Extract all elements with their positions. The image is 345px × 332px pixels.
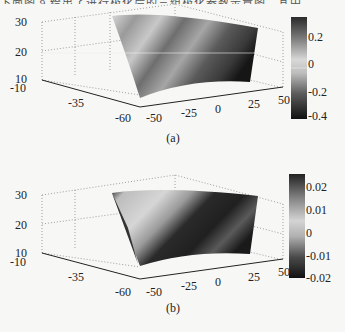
y-tick: -10 xyxy=(10,255,26,269)
z-tick: 20 xyxy=(15,218,27,232)
x-tick: 25 xyxy=(248,97,260,111)
colorbar-tick: -0.01 xyxy=(306,249,331,263)
y-tick: -10 xyxy=(10,81,26,95)
y-tick: -60 xyxy=(115,285,131,299)
x-tick: -50 xyxy=(146,111,162,125)
colorbar-tick: 0.2 xyxy=(308,30,323,44)
surface-a xyxy=(112,15,258,99)
colorbar-tick: 0.01 xyxy=(306,203,327,217)
x-tick: -25 xyxy=(181,279,197,293)
x-tick: -25 xyxy=(181,106,197,120)
y-tick: -35 xyxy=(68,270,84,284)
colorbar-tick: 0 xyxy=(308,57,314,71)
caption-a: (a) xyxy=(158,131,188,146)
y-tick: -60 xyxy=(115,111,131,125)
z-tick: 30 xyxy=(15,15,27,29)
z-tick: 20 xyxy=(15,45,27,59)
surface-b xyxy=(112,190,258,266)
colorbar-tick: -0.2 xyxy=(308,85,327,99)
x-tick: -50 xyxy=(146,285,162,299)
x-tick: 25 xyxy=(248,270,260,284)
colorbar-tick: -0.4 xyxy=(308,109,327,123)
figure-panel-b: 30 20 10 -10 -35 -60 -50 -25 0 25 50 0.0… xyxy=(0,166,345,332)
x-tick: 0 xyxy=(215,275,221,289)
caption-b: (b) xyxy=(158,301,188,316)
x-tick: 50 xyxy=(278,265,290,279)
colorbar-tick: 0 xyxy=(306,226,312,240)
figure-panel-a: 30 20 10 -10 -35 -60 -50 -25 0 25 50 0.2… xyxy=(0,0,345,166)
colorbar-tick: -0.02 xyxy=(306,271,331,285)
colorbar-tick: 0.02 xyxy=(306,180,327,194)
y-tick: -35 xyxy=(68,96,84,110)
x-tick: 50 xyxy=(278,93,290,107)
z-tick: 30 xyxy=(15,188,27,202)
x-tick: 0 xyxy=(215,102,221,116)
colorbar-b xyxy=(289,174,305,278)
